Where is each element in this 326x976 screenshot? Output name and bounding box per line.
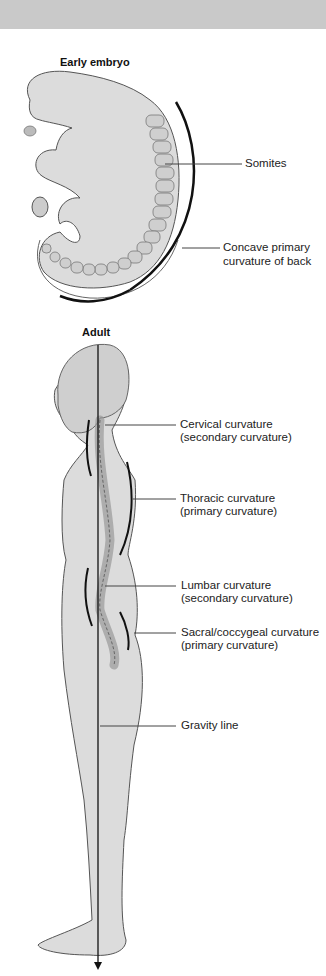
thoracic-label-line2: (primary curvature)	[180, 505, 277, 518]
lumbar-label-line2: (secondary curvature)	[181, 592, 293, 605]
anatomy-illustration	[0, 0, 326, 976]
somites-label: Somites	[245, 157, 287, 170]
lumbar-label-line1: Lumbar curvature	[181, 579, 271, 592]
cervical-label-line2: (secondary curvature)	[180, 431, 292, 444]
thoracic-label-line1: Thoracic curvature	[180, 492, 275, 505]
concave-label-line1: Concave primary	[223, 241, 310, 254]
cervical-label-line1: Cervical curvature	[180, 418, 273, 431]
adult-illustration	[38, 344, 176, 970]
embryo-title: Early embryo	[60, 56, 130, 68]
adult-title: Adult	[82, 326, 110, 338]
concave-label-line2: curvature of back	[223, 255, 311, 268]
sacral-label-line2: (primary curvature)	[181, 639, 278, 652]
embryo-illustration	[24, 71, 242, 301]
gravity-line-label: Gravity line	[181, 719, 239, 732]
sacral-label-line1: Sacral/coccygeal curvature	[181, 626, 319, 639]
